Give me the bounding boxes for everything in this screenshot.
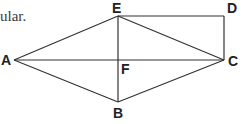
label-c: C xyxy=(228,53,238,69)
label-b: B xyxy=(113,105,123,121)
label-f: F xyxy=(121,61,130,77)
label-d: D xyxy=(227,0,237,16)
segment-ae xyxy=(14,16,118,60)
rhombus-diagram: E D A C F B xyxy=(0,0,242,124)
segment-ba xyxy=(14,60,118,102)
label-e: E xyxy=(112,0,121,16)
segment-ec xyxy=(118,16,224,60)
segment-cb xyxy=(118,60,224,102)
label-a: A xyxy=(1,52,11,68)
